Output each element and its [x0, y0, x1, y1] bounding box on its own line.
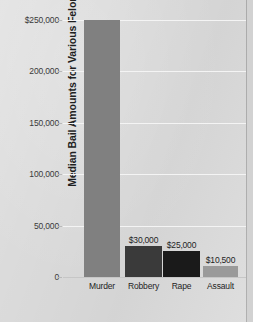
bar-murder: [84, 20, 120, 277]
y-axis-tick-mark: [58, 174, 62, 175]
y-axis-tick-label: $250,000: [3, 15, 59, 25]
y-axis-tick-mark: [58, 20, 62, 21]
bar-rape: [163, 251, 200, 277]
bar-robbery: [125, 246, 162, 277]
y-axis-tick-mark: [58, 123, 62, 124]
y-axis-tick-label: 100,000: [3, 169, 59, 179]
y-axis-tick-mark: [58, 226, 62, 227]
y-axis-tick-mark: [58, 71, 62, 72]
y-axis-tick-label: 50,000: [3, 221, 59, 231]
category-label-assault: Assault: [195, 281, 246, 291]
bar-value-label-rape: $25,000: [157, 240, 206, 250]
page-margin: [247, 0, 253, 322]
bar-value-label-assault: $10,500: [197, 255, 244, 265]
y-axis-tick-mark: [58, 277, 62, 278]
y-axis-tick-label: 150,000: [3, 118, 59, 128]
y-axis-tick-label: 0: [3, 272, 59, 282]
bar-assault: [203, 266, 238, 277]
gridline: [63, 277, 246, 278]
bar-chart-figure: Median Bail Amounts for Various Felonies…: [0, 0, 253, 322]
y-axis-tick-label: 200,000: [3, 66, 59, 76]
